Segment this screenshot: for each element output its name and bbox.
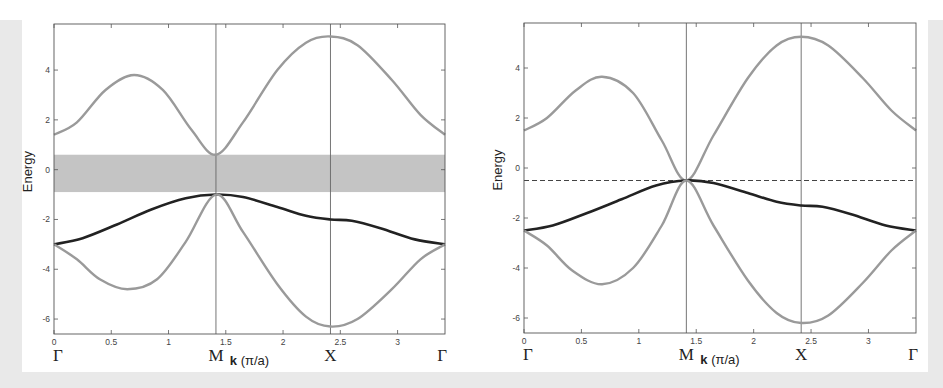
high-symmetry-label: Γ <box>437 346 447 365</box>
y-tick-label: 4 <box>515 63 520 73</box>
high-symmetry-label: Γ <box>523 345 533 364</box>
x-tick-label: 1 <box>166 337 171 347</box>
high-symmetry-label: Γ <box>53 346 63 365</box>
x-tick-label: 2 <box>281 337 286 347</box>
y-tick-label: -4 <box>512 263 520 273</box>
y-tick-label: -6 <box>512 313 520 323</box>
x-tick-label: 0.5 <box>105 337 117 347</box>
x-axis-label: k (π/a) <box>230 353 269 368</box>
y-tick-label: 0 <box>515 163 520 173</box>
right-band-plot: 00.511.522.53420-2-4-6ΓMXΓk (π/a)Energy <box>490 23 918 367</box>
left-band-plot: 00.511.522.53420-2-4-6ΓMXΓk (π/a)Energy <box>20 24 447 368</box>
y-tick-label: -2 <box>42 214 50 224</box>
high-symmetry-label: M <box>208 346 223 365</box>
high-symmetry-label: X <box>795 345 807 364</box>
x-tick-label: 3 <box>395 337 400 347</box>
x-tick-label: 1 <box>636 336 641 346</box>
y-tick-label: 4 <box>45 65 50 75</box>
y-tick-label: -4 <box>42 264 50 274</box>
high-symmetry-label: M <box>679 345 694 364</box>
y-tick-label: -2 <box>512 213 520 223</box>
x-tick-label: 0.5 <box>575 336 587 346</box>
y-axis-label: Energy <box>20 151 35 193</box>
plot-area <box>524 23 916 333</box>
x-tick-label: 2 <box>751 336 756 346</box>
high-symmetry-label: Γ <box>908 345 918 364</box>
y-tick-label: -6 <box>42 314 50 324</box>
y-tick-label: 2 <box>45 115 50 125</box>
band-structure-figure: 00.511.522.53420-2-4-6ΓMXΓk (π/a)Energy … <box>0 0 943 388</box>
x-axis-label: k (π/a) <box>700 352 739 367</box>
x-tick-label: 3 <box>866 336 871 346</box>
y-axis-label: Energy <box>490 149 505 191</box>
y-tick-label: 0 <box>45 165 50 175</box>
high-symmetry-label: X <box>324 346 336 365</box>
y-tick-label: 2 <box>515 113 520 123</box>
gap-shaded-band <box>54 155 445 192</box>
